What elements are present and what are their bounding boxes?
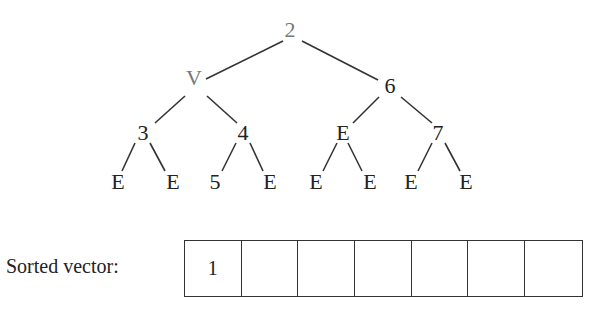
tree-node-lrl: 5 [210,171,221,193]
sorted-vector-label: Sorted vector: [6,255,119,278]
tree-node-lrr: E [263,171,276,193]
tree-edge [122,143,135,171]
tree-edge [206,41,283,79]
tree-edge [150,143,165,171]
tree-edge [323,143,337,171]
tree-node-lll: E [111,171,124,193]
vector-cell-1 [242,241,299,296]
vector-cell-4 [412,241,469,296]
tree-edge [302,41,378,80]
tree-node-rrr: E [459,171,472,193]
tree-edge [222,143,236,171]
tree-edge [445,143,460,171]
vector-cell-5 [468,241,525,296]
tree-node-lr: 4 [238,122,249,144]
tree-node-rll: E [309,171,322,193]
tree-edge [207,96,237,123]
sorted-vector: 1 [184,240,583,297]
tree-edge [353,97,379,123]
tree-edge [401,97,432,123]
vector-cell-3 [355,241,412,296]
tree-node-rl: E [336,122,349,144]
tree-node-root: 2 [285,19,296,41]
tree-edge [418,143,432,171]
tree-edge [348,143,362,171]
tree-node-ll: 3 [138,122,149,144]
tree-node-llr: E [166,171,179,193]
tree-node-rrl: E [404,171,417,193]
tree-edge [155,96,185,123]
tree-node-r: 6 [385,75,396,97]
tree-node-rlr: E [363,171,376,193]
vector-cell-6 [525,241,582,296]
vector-cell-0: 1 [185,241,242,296]
tree-node-l: V [186,67,202,89]
tree-edge [250,143,263,171]
vector-cell-2 [298,241,355,296]
tree-node-rr: 7 [433,122,444,144]
